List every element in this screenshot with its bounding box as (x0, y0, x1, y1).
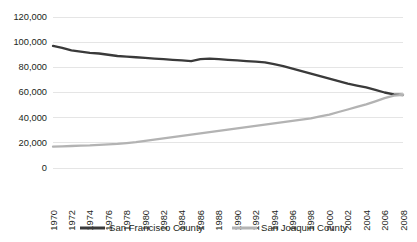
x-tick-label: 1972 (67, 210, 77, 231)
x-tick-label: 2006 (380, 210, 390, 231)
x-tick-label: 1970 (49, 210, 59, 231)
x-tick-label: 2008 (399, 210, 409, 231)
y-tick-label: 0 (42, 163, 47, 173)
x-tick-label: 2004 (362, 210, 372, 231)
data-series-group (53, 46, 403, 147)
legend-label-0: San Francisco County (109, 222, 204, 233)
y-tick-label: 60,000 (19, 87, 47, 97)
line-chart: 020,00040,00060,00080,000100,000120,000 … (0, 0, 417, 242)
series-line-0 (53, 46, 403, 95)
y-tick-label: 20,000 (19, 138, 47, 148)
legend-label-1: San Joaquin County (261, 222, 348, 233)
y-tick-label: 40,000 (19, 113, 47, 123)
series-line-1 (53, 95, 403, 147)
chart-canvas: 020,00040,00060,00080,000100,000120,000 … (0, 0, 417, 242)
y-tick-label: 100,000 (13, 37, 47, 47)
x-tick-label: 1988 (214, 210, 224, 231)
y-tick-label: 80,000 (19, 62, 47, 72)
y-tick-label: 120,000 (13, 12, 47, 22)
y-axis-tick-labels: 020,00040,00060,00080,000100,000120,000 (13, 12, 47, 173)
